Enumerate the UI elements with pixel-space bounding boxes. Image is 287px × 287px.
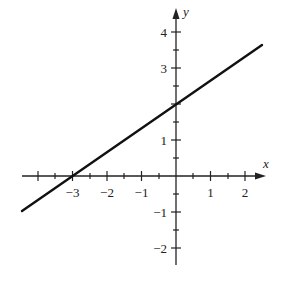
x-tick-label: 1 — [207, 185, 214, 200]
y-axis-label: y — [181, 4, 189, 19]
y-tick-label: 1 — [161, 133, 168, 148]
y-tick-label: −1 — [153, 205, 167, 220]
y-axis: 4 3 1 −1 −2 y — [153, 4, 189, 265]
x-axis: −3 −2 −1 1 2 x — [22, 156, 269, 200]
x-tick-label: −3 — [66, 185, 80, 200]
x-tick-label: 2 — [242, 185, 249, 200]
y-tick-label: 4 — [161, 25, 168, 40]
x-axis-arrow-icon — [255, 173, 266, 180]
x-tick-label: −2 — [100, 185, 114, 200]
x-axis-label: x — [262, 156, 269, 171]
x-tick-label: −1 — [135, 185, 149, 200]
chart: −3 −2 −1 1 2 x 4 3 1 −1 −2 y — [0, 0, 287, 287]
y-tick-label: −2 — [153, 241, 167, 256]
y-axis-arrow-icon — [173, 8, 180, 19]
y-tick-label: 3 — [161, 61, 168, 76]
